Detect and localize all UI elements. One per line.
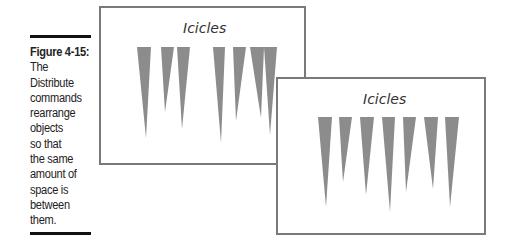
icicle-shape: [424, 117, 438, 189]
slide-after-distribute: Icicles: [276, 77, 486, 235]
caption-line: rearrange: [30, 106, 91, 121]
icicle-shape: [233, 47, 246, 121]
icicle-shape: [382, 117, 395, 212]
caption-line: objects: [30, 121, 91, 136]
icicle-shape: [403, 117, 416, 192]
caption-line: the same: [30, 152, 91, 167]
figure-caption: Figure 4-15: The Distribute commands rea…: [30, 45, 91, 229]
caption-top-rule: [30, 35, 91, 38]
icicle-shape: [360, 117, 374, 195]
caption-line: between: [30, 198, 91, 213]
slide-before-distribute: Icicles: [99, 6, 306, 165]
caption-line: space is: [30, 183, 91, 198]
caption-line: them.: [30, 213, 91, 228]
icicle-shape: [318, 117, 332, 207]
icicle-shape: [137, 47, 151, 138]
caption-line: commands: [30, 91, 91, 106]
icicle-shape: [445, 117, 459, 207]
icicle-shape: [250, 47, 264, 118]
icicle-shape: [177, 47, 190, 129]
caption-line: The: [30, 60, 91, 75]
caption-bottom-rule: [30, 232, 91, 235]
caption-line: so that: [30, 137, 91, 152]
figure-label: Figure 4-15:: [30, 45, 91, 60]
caption-line: amount of: [30, 167, 91, 182]
icicle-shape: [339, 117, 352, 182]
icicle-shape: [161, 47, 174, 112]
caption-line: Distribute: [30, 76, 91, 91]
icicle-group: [278, 79, 488, 237]
icicle-shape: [213, 47, 225, 143]
